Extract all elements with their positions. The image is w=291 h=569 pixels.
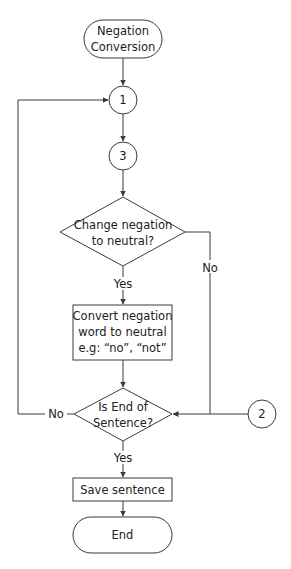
connector-1-label: 1 bbox=[119, 93, 126, 107]
connector-3: 3 bbox=[109, 142, 137, 170]
decision1-line1: Change negation bbox=[74, 218, 172, 232]
process-save-sentence: Save sentence bbox=[73, 478, 172, 501]
decision1-line2: to neutral? bbox=[92, 234, 154, 248]
decision2-yes-label: Yes bbox=[113, 451, 133, 465]
process1-line1: Convert negation bbox=[73, 309, 173, 323]
decision2-no-label: No bbox=[48, 407, 64, 421]
decision1-yes-label: Yes bbox=[113, 277, 133, 291]
end-terminator: End bbox=[73, 517, 172, 553]
process1-line3: e.g: “no”, “not” bbox=[78, 341, 166, 355]
connector-1: 1 bbox=[109, 86, 137, 114]
start-label-line1: Negation bbox=[97, 24, 149, 38]
start-terminator: Negation Conversion bbox=[84, 20, 162, 58]
process2-line1: Save sentence bbox=[80, 483, 165, 497]
process1-line2: word to neutral bbox=[78, 325, 166, 339]
decision1-no-label: No bbox=[202, 261, 218, 275]
flowchart-canvas: Negation Conversion 1 3 Change negation … bbox=[0, 0, 291, 569]
decision-change-negation: Change negation to neutral? bbox=[60, 197, 185, 266]
connector-2-label: 2 bbox=[258, 407, 265, 421]
start-label-line2: Conversion bbox=[91, 40, 155, 54]
decision-end-of-sentence: Is End of Sentence? bbox=[74, 388, 172, 441]
connector-3-label: 3 bbox=[119, 149, 126, 163]
process-convert-negation: Convert negation word to neutral e.g: “n… bbox=[73, 305, 173, 360]
connector-2: 2 bbox=[248, 400, 276, 428]
decision2-line1: Is End of bbox=[98, 400, 149, 414]
edge-decision1-no bbox=[173, 232, 210, 414]
edge-decision2-no-loop bbox=[18, 100, 108, 414]
end-label: End bbox=[112, 528, 134, 542]
decision2-line2: Sentence? bbox=[93, 416, 153, 430]
